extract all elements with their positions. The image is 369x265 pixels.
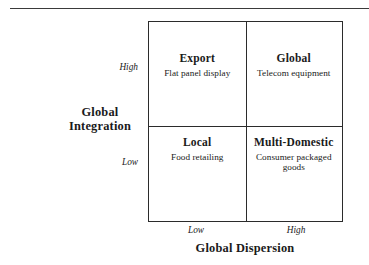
x-axis-tick-high: High bbox=[266, 225, 326, 236]
x-axis-title: Global Dispersion bbox=[155, 241, 335, 255]
x-axis-tick-low: Low bbox=[166, 225, 226, 236]
top-horizontal-rule bbox=[10, 8, 369, 9]
quadrant-local: Local Food retailing bbox=[149, 126, 246, 221]
matrix-box: Export Flat panel display Global Telecom… bbox=[148, 21, 343, 222]
y-axis-tick-high: High bbox=[48, 62, 138, 73]
quadrant-global-example: Telecom equipment bbox=[246, 68, 343, 79]
quadrant-local-example: Food retailing bbox=[149, 152, 246, 163]
strategy-matrix-figure: High Low Global Integration Export Flat … bbox=[0, 0, 369, 265]
quadrant-export-example: Flat panel display bbox=[149, 68, 246, 79]
quadrant-local-title: Local bbox=[149, 136, 246, 149]
quadrant-global: Global Telecom equipment bbox=[246, 22, 343, 126]
quadrant-global-title: Global bbox=[246, 52, 343, 65]
quadrant-multi-domestic-title: Multi-Domestic bbox=[246, 136, 343, 149]
quadrant-multi-domestic: Multi-Domestic Consumer packaged goods bbox=[246, 126, 343, 221]
quadrant-export: Export Flat panel display bbox=[149, 22, 246, 126]
y-axis-title-line1: Global bbox=[81, 105, 118, 119]
quadrant-multi-domestic-example: Consumer packaged goods bbox=[246, 152, 343, 173]
quadrant-export-title: Export bbox=[149, 52, 246, 65]
y-axis-tick-low: Low bbox=[48, 157, 138, 168]
